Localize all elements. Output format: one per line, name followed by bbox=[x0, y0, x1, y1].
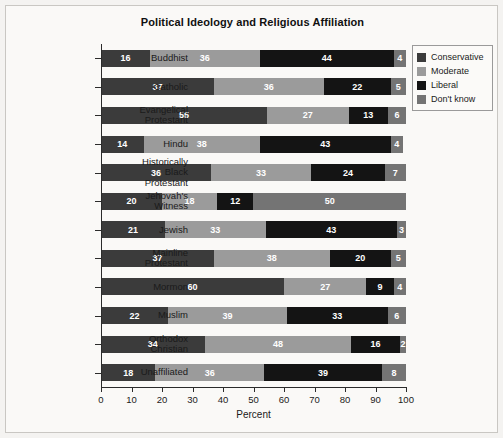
x-axis-tick-label: 60 bbox=[279, 394, 290, 405]
bar-segment: 48 bbox=[205, 336, 351, 353]
x-axis-tick-label: 80 bbox=[340, 394, 351, 405]
bar-segment: 39 bbox=[264, 364, 382, 381]
bar-segment-value: 36 bbox=[205, 368, 215, 378]
bar-segment-value: 20 bbox=[355, 253, 365, 263]
bar-segment-value: 33 bbox=[210, 225, 220, 235]
bar-segment-value: 13 bbox=[363, 110, 373, 120]
bar-segment: 4 bbox=[391, 136, 403, 153]
bar-segment-value: 43 bbox=[320, 139, 330, 149]
bar-segment: 9 bbox=[366, 278, 393, 295]
bar-segment-value: 5 bbox=[396, 253, 401, 263]
bar-segment: 2 bbox=[400, 336, 406, 353]
y-axis-category-label: Jehovah'sWitness bbox=[0, 191, 188, 212]
y-axis-tick bbox=[95, 373, 101, 374]
x-axis-tick-label: 70 bbox=[309, 394, 320, 405]
y-axis-category-label: MainlineProtestant bbox=[0, 248, 188, 269]
screenshot-frame: Political Ideology and Religious Affilia… bbox=[0, 0, 503, 438]
legend-item[interactable]: Don't know bbox=[417, 92, 489, 106]
legend-item[interactable]: Moderate bbox=[417, 64, 489, 78]
bar-segment: 38 bbox=[214, 250, 330, 267]
bar-segment-value: 9 bbox=[378, 282, 383, 292]
bar-segment-value: 4 bbox=[394, 139, 399, 149]
bar-segment: 12 bbox=[217, 193, 254, 210]
bar-segment-value: 16 bbox=[370, 339, 380, 349]
x-axis-tick bbox=[376, 387, 377, 392]
bar-segment: 43 bbox=[266, 221, 397, 238]
x-axis-tick bbox=[223, 387, 224, 392]
legend-item[interactable]: Liberal bbox=[417, 78, 489, 92]
legend-item-label: Don't know bbox=[431, 94, 475, 104]
bar-segment-value: 22 bbox=[352, 82, 362, 92]
y-axis-tick bbox=[95, 344, 101, 345]
bar-segment-value: 5 bbox=[396, 82, 401, 92]
x-axis-tick-label: 50 bbox=[248, 394, 259, 405]
x-axis-tick bbox=[345, 387, 346, 392]
bar-segment-value: 7 bbox=[393, 168, 398, 178]
x-axis-tick-label: 100 bbox=[398, 394, 414, 405]
chart-legend: ConservativeModerateLiberalDon't know bbox=[412, 45, 493, 111]
bar-segment: 50 bbox=[253, 193, 406, 210]
legend-item[interactable]: Conservative bbox=[417, 50, 489, 64]
y-axis-tick bbox=[95, 201, 101, 202]
y-axis-category-label: Unaffiliated bbox=[0, 367, 188, 378]
x-axis-tick bbox=[162, 387, 163, 392]
y-axis-category-label: Jewish bbox=[0, 225, 188, 236]
bar-segment-value: 27 bbox=[303, 110, 313, 120]
bar-segment-value: 38 bbox=[267, 253, 277, 263]
y-axis-tick bbox=[95, 316, 101, 317]
legend-color-swatch bbox=[417, 67, 426, 76]
y-axis-category-label: EvangelicalProtestant bbox=[0, 105, 188, 126]
y-axis-category-label: HistoricallyBlackProtestant bbox=[0, 157, 188, 189]
bar-segment-value: 33 bbox=[256, 168, 266, 178]
legend-color-swatch bbox=[417, 81, 426, 90]
bar-segment: 27 bbox=[267, 107, 349, 124]
bar-segment-value: 50 bbox=[325, 196, 335, 206]
bar-segment-value: 39 bbox=[223, 311, 233, 321]
bar-segment-value: 8 bbox=[391, 368, 396, 378]
y-axis-tick bbox=[95, 115, 101, 116]
x-axis-title: Percent bbox=[101, 409, 406, 420]
legend-item-label: Moderate bbox=[431, 66, 469, 76]
x-axis-tick-label: 0 bbox=[98, 394, 103, 405]
bar-segment-value: 60 bbox=[187, 282, 197, 292]
bar-segment: 27 bbox=[284, 278, 366, 295]
bar-segment-value: 36 bbox=[264, 82, 274, 92]
y-axis-tick bbox=[95, 58, 101, 59]
y-axis-tick bbox=[95, 173, 101, 174]
x-axis-tick bbox=[284, 387, 285, 392]
bar-segment: 44 bbox=[260, 50, 394, 67]
y-axis-category-label: Mormon bbox=[0, 282, 188, 293]
y-axis-category-label: Buddhist bbox=[0, 53, 188, 64]
bar-segment: 4 bbox=[394, 50, 406, 67]
bar-segment-value: 38 bbox=[197, 139, 207, 149]
bar-segment: 7 bbox=[385, 164, 406, 181]
bar-segment-value: 4 bbox=[397, 53, 402, 63]
bar-segment: 4 bbox=[394, 278, 406, 295]
bar-segment-value: 3 bbox=[399, 225, 404, 235]
bar-segment: 16 bbox=[351, 336, 400, 353]
y-axis-category-label: OrthodoxChristian bbox=[0, 334, 188, 355]
legend-color-swatch bbox=[417, 53, 426, 62]
bar-segment-value: 27 bbox=[320, 282, 330, 292]
bar-segment: 6 bbox=[388, 307, 406, 324]
x-axis-tick bbox=[406, 387, 407, 392]
legend-color-swatch bbox=[417, 95, 426, 104]
y-axis-tick bbox=[95, 258, 101, 259]
x-axis-tick-label: 30 bbox=[187, 394, 198, 405]
chart-canvas: Political Ideology and Religious Affilia… bbox=[5, 5, 498, 433]
x-axis-tick bbox=[132, 387, 133, 392]
bar-segment: 5 bbox=[391, 250, 406, 267]
bar-segment: 5 bbox=[391, 78, 406, 95]
y-axis-category-label: Muslim bbox=[0, 310, 188, 321]
bar-segment: 20 bbox=[330, 250, 391, 267]
bar-segment: 13 bbox=[349, 107, 388, 124]
x-axis-tick bbox=[254, 387, 255, 392]
y-axis-tick bbox=[95, 287, 101, 288]
bar-segment: 3 bbox=[397, 221, 406, 238]
x-axis-tick bbox=[193, 387, 194, 392]
bar-segment: 36 bbox=[214, 78, 324, 95]
bar-segment: 8 bbox=[382, 364, 406, 381]
x-axis-tick bbox=[101, 387, 102, 392]
y-axis-category-label: Catholic bbox=[0, 82, 188, 93]
x-axis-tick-label: 90 bbox=[370, 394, 381, 405]
